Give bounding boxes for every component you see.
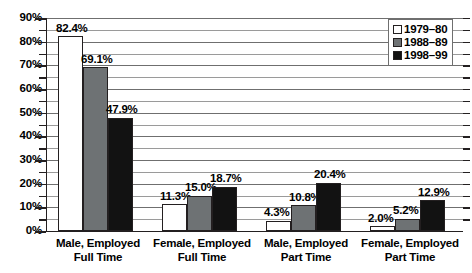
bar: [162, 204, 187, 231]
right-edge-tick-mark: [463, 207, 470, 208]
right-edge-tick-mark: [463, 54, 470, 55]
bar-value-label: 20.4%: [314, 169, 346, 181]
y-axis-tick-mark: [39, 172, 46, 174]
y-axis-tick-mark: [39, 30, 46, 32]
y-axis-tick-mark: [39, 77, 46, 79]
right-edge-tick-mark: [463, 219, 470, 220]
right-edge-tick-mark: [463, 184, 470, 185]
y-axis-tick-mark: [39, 219, 46, 221]
bar: [316, 183, 341, 231]
right-edge-tick-mark: [463, 172, 470, 173]
right-edge-tick-mark: [463, 148, 470, 149]
bar-value-label: 5.2%: [393, 205, 418, 217]
bar: [187, 196, 212, 232]
bar: [83, 67, 108, 231]
right-edge-tick-mark: [463, 65, 470, 66]
bar-value-label: 47.9%: [106, 104, 138, 116]
right-edge-tick-mark: [463, 196, 470, 197]
bar: [266, 221, 291, 231]
legend-color-swatch: [393, 51, 402, 60]
bar: [370, 226, 395, 231]
y-axis-tick-mark: [39, 125, 46, 127]
y-axis-tick-mark: [39, 54, 46, 56]
legend-item-label: 1979–80: [404, 24, 447, 36]
legend-item-label: 1988–89: [404, 37, 447, 49]
y-axis-tick-mark: [35, 184, 46, 186]
y-axis-tick-mark: [39, 148, 46, 150]
bar-value-label: 82.4%: [56, 23, 88, 35]
right-edge-tick-mark: [463, 42, 470, 43]
bar: [395, 219, 420, 231]
y-axis-tick-mark: [35, 65, 46, 67]
y-axis-tick-mark: [35, 113, 46, 115]
legend-item: 1998–99: [393, 49, 447, 62]
bar: [58, 36, 83, 231]
x-axis-category-label: Female, Employed Full Time: [150, 236, 254, 264]
bar-value-label: 4.3%: [264, 207, 289, 219]
y-axis-tick-mark: [35, 42, 46, 44]
right-edge-tick-mark: [463, 89, 470, 90]
x-axis-category-label: Male, Employed Full Time: [46, 236, 150, 264]
right-edge-tick-mark: [463, 18, 470, 19]
y-axis-tick-mark: [35, 18, 46, 20]
legend-color-swatch: [393, 38, 402, 47]
bar: [291, 205, 316, 231]
bar: [420, 200, 445, 231]
x-axis-category-label: Female, Employed Part Time: [358, 236, 462, 264]
right-edge-tick-mark: [463, 113, 470, 114]
bar-value-label: 69.1%: [81, 54, 113, 66]
legend-item-label: 1998–99: [404, 50, 447, 62]
right-edge-tick-mark: [463, 160, 470, 161]
y-axis-tick-mark: [35, 160, 46, 162]
y-axis-tick-mark: [35, 207, 46, 209]
legend-item: 1979–80: [393, 23, 447, 36]
right-edge-tick-mark: [463, 125, 470, 126]
bar-chart: 0%10%20%30%40%50%60%70%80%90% 82.4%69.1%…: [0, 0, 472, 273]
legend: 1979–801988–891998–99: [388, 19, 453, 66]
y-axis-tick-mark: [39, 101, 46, 103]
right-edge-tick-mark: [463, 101, 470, 102]
bar-group: 4.3%10.8%20.4%: [266, 18, 341, 231]
y-axis-tick-mark: [35, 231, 46, 233]
bar-value-label: 2.0%: [368, 213, 393, 225]
right-edge-tick-mark: [463, 30, 470, 31]
legend-item: 1988–89: [393, 36, 447, 49]
right-edge-tick-mark: [463, 77, 470, 78]
x-axis-category-label: Male, Employed Part Time: [254, 236, 358, 264]
y-axis-tick-mark: [35, 136, 46, 138]
y-axis-tick-mark: [39, 196, 46, 198]
bar-group: 82.4%69.1%47.9%: [58, 18, 133, 231]
legend-color-swatch: [393, 25, 402, 34]
bar-group: 11.3%15.0%18.7%: [162, 18, 237, 231]
bar-value-label: 18.7%: [210, 173, 242, 185]
bar-value-label: 12.9%: [418, 187, 450, 199]
right-edge-tick-mark: [463, 136, 470, 137]
bar: [212, 187, 237, 231]
bar: [108, 118, 133, 231]
y-axis-tick-mark: [35, 89, 46, 91]
